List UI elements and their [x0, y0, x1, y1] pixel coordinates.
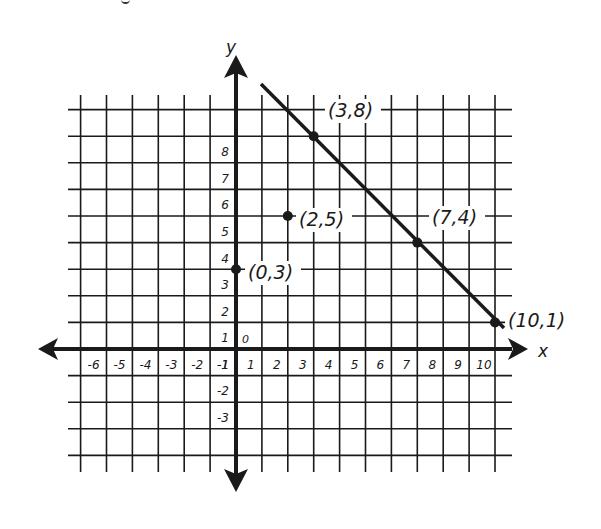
- y-axis-label: y: [225, 37, 237, 57]
- data-point: [283, 211, 293, 221]
- y-tick-label: 1: [221, 331, 229, 345]
- x-tick-label: -2: [191, 358, 203, 372]
- x-tick-label: -3: [165, 358, 177, 372]
- x-tick-label: 4: [325, 358, 333, 372]
- y-tick-label: 4: [221, 252, 229, 266]
- x-tick-label: 1: [247, 358, 255, 372]
- x-tick-label: 8: [428, 358, 436, 372]
- x-tick-label: -4: [139, 358, 151, 372]
- y-tick-label: 8: [221, 145, 229, 159]
- x-tick-label: -6: [88, 358, 100, 372]
- x-tick-label: 3: [299, 358, 307, 372]
- y-tick-label: 2: [221, 305, 229, 319]
- x-tick-label: 7: [402, 358, 410, 372]
- point-label: (3,8): [328, 99, 373, 121]
- x-tick-label: 10: [476, 358, 492, 372]
- origin-label: 0: [242, 333, 249, 346]
- coordinate-plane: xy-6-5-4-3-2-11234567891012345678-1-2-30…: [0, 0, 601, 529]
- x-tick-label: 6: [377, 358, 385, 372]
- x-tick-label: 2: [273, 358, 281, 372]
- y-tick-label: 5: [221, 225, 229, 239]
- data-point: [231, 264, 241, 274]
- x-tick-label: 9: [454, 358, 462, 372]
- data-point: [309, 131, 319, 141]
- y-tick-label: -2: [217, 384, 229, 398]
- y-tick-label: -1: [217, 358, 229, 372]
- data-point: [412, 238, 422, 248]
- y-tick-label: -3: [217, 411, 229, 425]
- x-tick-label: 5: [351, 358, 359, 372]
- data-point: [490, 317, 500, 327]
- y-tick-label: 3: [221, 278, 229, 292]
- y-tick-label: 7: [221, 172, 229, 186]
- point-label: (7,4): [432, 206, 477, 228]
- y-tick-label: 6: [221, 198, 229, 212]
- point-label: (10,1): [508, 309, 565, 331]
- x-tick-label: -5: [114, 358, 126, 372]
- x-axis-label: x: [537, 341, 549, 361]
- point-label: (2,5): [299, 208, 344, 230]
- point-label: (0,3): [248, 261, 293, 283]
